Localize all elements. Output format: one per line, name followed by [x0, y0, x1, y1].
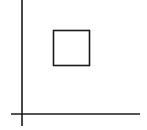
- square-shape: [54, 31, 90, 66]
- diagram-canvas: [0, 0, 147, 130]
